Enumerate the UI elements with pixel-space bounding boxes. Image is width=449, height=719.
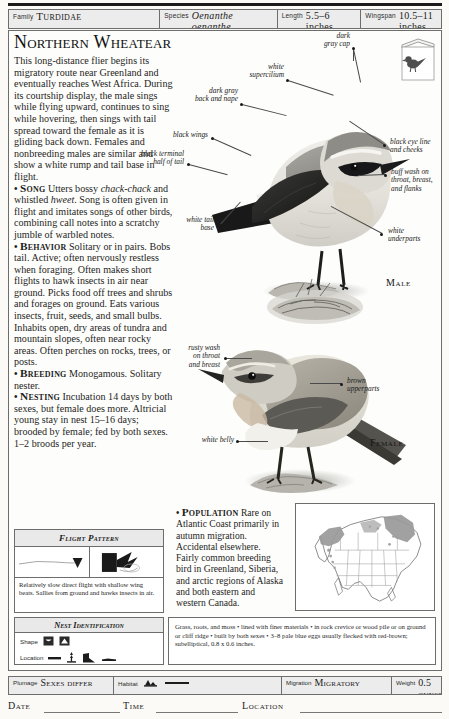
- callout-white-belly: white belly: [180, 436, 234, 444]
- location-label: Location: [242, 700, 284, 711]
- section-text-part: chack-chack: [101, 183, 151, 194]
- flight-pattern-note: Relatively slow direct flight with shall…: [15, 578, 163, 597]
- weight-key: Weight: [396, 679, 415, 686]
- population-text: Rare on Atlantic Coast primarily in autu…: [176, 507, 283, 608]
- callout-dark-gray-cap: dark gray cap: [292, 32, 350, 49]
- dot-white-belly: [236, 440, 239, 443]
- range-map-box: [295, 503, 435, 611]
- nest-shape-cup-icon: [43, 636, 54, 646]
- account-sections: • Song Utters bossy chack-chack and whis…: [14, 183, 174, 450]
- sallying-bird-icon: [90, 547, 164, 577]
- callout-buff-wash: buff wash on throat, breast, and flanks: [391, 168, 447, 193]
- section-label: Breeding: [20, 367, 66, 379]
- nest-shape-key: Shape: [20, 638, 38, 645]
- bottom-attribute-bar: Plumage Sexes differ Habitat Migration M…: [8, 676, 442, 695]
- flight-pattern-panes: [15, 547, 163, 578]
- habitat-tundra-icon: [165, 677, 191, 687]
- flight-pattern-caption: Flight Pattern: [15, 530, 163, 547]
- family-value: Turdidae: [36, 10, 81, 22]
- dot-white-underparts: [380, 233, 383, 236]
- population-section: • Population Rare on Atlantic Coast prim…: [176, 507, 284, 609]
- nest-shape-row: Shape: [15, 633, 163, 649]
- habitat-key: Habitat: [118, 680, 138, 687]
- location-write-line[interactable]: [300, 712, 442, 713]
- section-label: Behavior: [20, 240, 66, 252]
- plumage-value: Sexes differ: [40, 677, 92, 688]
- callout-white-supercilium: white supercilium: [222, 63, 284, 80]
- plumage-key: Plumage: [13, 679, 37, 686]
- callout-white-underparts: white underparts: [388, 227, 442, 244]
- nest-location-key: Location: [20, 654, 43, 661]
- account-section: • Song Utters bossy chack-chack and whis…: [14, 183, 174, 241]
- time-label: Time: [123, 700, 144, 711]
- page-title: Northern Wheatear: [14, 33, 189, 52]
- dot-black-terminal-tail: [187, 163, 190, 166]
- top-rule: [8, 3, 442, 6]
- header-field-wingspan: Wingspan 10.5–11 inches: [361, 10, 441, 28]
- leader-rusty-wash: [226, 358, 252, 359]
- callout-black-terminal-half-of-tail: black terminal half of tail: [124, 150, 184, 167]
- callout-rusty-wash: rusty wash on throat and breast: [166, 344, 220, 369]
- section-text-part: Utters bossy: [48, 183, 101, 194]
- record-footer: Date Time Location: [8, 700, 442, 716]
- account-section: • Breeding Monogamous. Solitary nester.: [14, 368, 174, 391]
- time-write-line[interactable]: [156, 712, 238, 713]
- nest-location-cliff-icon: [82, 652, 96, 663]
- callout-brown-upperparts: brown upperparts: [347, 377, 403, 394]
- nest-location-ground-icon: [48, 653, 61, 662]
- callout-white-tail-base: white tail base: [160, 216, 214, 233]
- migration-value: Migratory: [314, 677, 360, 688]
- dot-white-supercilium: [286, 79, 289, 82]
- wingspan-key: Wingspan: [365, 12, 396, 19]
- wingspan-value: 10.5–11 inches: [399, 10, 437, 28]
- flight-pattern-box: Flight Pattern Relatively slow direct fl…: [14, 529, 164, 613]
- female-label: Female: [370, 437, 403, 448]
- length-value: 5.5–6 inches: [306, 10, 357, 28]
- migration-key: Migration: [286, 679, 311, 686]
- account-section: • Behavior Solitary or in pairs. Bobs ta…: [14, 241, 174, 369]
- species-value: Oenanthe oenanthe: [192, 10, 273, 28]
- leader-dark-gray-cap-2: [353, 49, 361, 82]
- header-attribute-bar: Family Turdidae Species Oenanthe oenanth…: [8, 9, 442, 29]
- nest-identification-caption: Nest Identification: [15, 618, 163, 633]
- family-key: Family: [13, 13, 33, 20]
- dot-rusty-wash: [224, 357, 227, 360]
- section-label: Nesting: [20, 390, 60, 402]
- dot-white-tail-base: [218, 223, 221, 226]
- section-label: Song: [20, 182, 45, 194]
- nest-description: Grass, roots, and moss • lined with fine…: [168, 617, 436, 665]
- species-key: Species: [164, 12, 189, 19]
- leader-brown-upperparts: [310, 383, 342, 384]
- male-label: Male: [386, 277, 411, 288]
- date-write-line[interactable]: [44, 712, 120, 713]
- callout-black-eye-line-and-cheeks: black eye line and cheeks: [390, 138, 446, 155]
- nest-location-row: Location: [15, 649, 163, 665]
- attribute-migration: Migration Migratory: [282, 677, 392, 694]
- field-guide-page: Family Turdidae Species Oenanthe oenanth…: [0, 0, 449, 719]
- dot-dark-gray-back: [240, 103, 243, 106]
- callout-dark-gray-back-and-nape: dark gray back and nape: [176, 87, 238, 104]
- flight-path-icon: [15, 547, 89, 577]
- header-field-family: Family Turdidae: [9, 10, 160, 28]
- species-account-text: This long-distance flier begins its migr…: [14, 55, 174, 449]
- dot-buff-wash: [384, 174, 387, 177]
- attribute-plumage: Plumage Sexes differ: [9, 677, 114, 694]
- leader-white-belly: [238, 441, 268, 442]
- dot-black-eye-line: [383, 144, 386, 147]
- section-text-part: hweet: [51, 194, 75, 205]
- dot-dark-gray-cap: [352, 47, 355, 50]
- weight-value: 0.5 ounce: [418, 677, 441, 694]
- attribute-habitat: Habitat: [114, 677, 282, 694]
- nest-identification-box: Nest Identification Shape Location: [14, 617, 164, 665]
- female-wheatear-illustration: [196, 319, 414, 499]
- population-label: Population: [182, 506, 239, 518]
- nest-location-rock-pile-icon: [101, 653, 117, 662]
- header-field-length: Length 5.5–6 inches: [278, 10, 362, 28]
- flight-pattern-bird-pane: [90, 547, 164, 577]
- section-text-part: Solitary or in pairs. Bobs tail. Active;…: [14, 241, 172, 368]
- callout-black-wings: black wings: [156, 131, 208, 139]
- nest-shape-crevice-icon: [59, 636, 70, 646]
- length-key: Length: [282, 12, 303, 19]
- flight-pattern-diagram-pane: [15, 547, 90, 577]
- attribute-weight: Weight 0.5 ounce: [392, 677, 441, 694]
